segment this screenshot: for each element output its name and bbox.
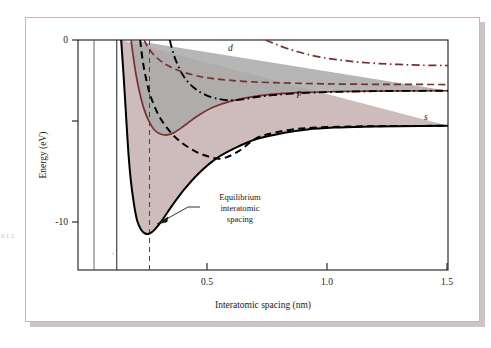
y-axis-ticks bbox=[72, 40, 78, 222]
y-tick-label-0: 0 bbox=[63, 35, 68, 45]
plot-inner-tiny-mark: * bbox=[112, 252, 114, 257]
y-tick-label-minus10: -10 bbox=[55, 217, 68, 227]
x-tick-label-0.5: 0.5 bbox=[201, 277, 213, 287]
y-axis-title: Energy (eV) bbox=[38, 131, 49, 178]
x-axis-title: Interatomic spacing (nm) bbox=[215, 300, 311, 311]
curve-label-p: p bbox=[296, 88, 302, 98]
band-structure-chart: 0 -10 0.5 1.0 1.5 Interatomic spacing (n… bbox=[0, 0, 491, 348]
inner-vertical-lines bbox=[94, 40, 117, 270]
annotation-line-3: spacing bbox=[227, 214, 254, 224]
figure-root: 0 1 2 bbox=[0, 0, 491, 348]
annotation-line-1: Equilibrium bbox=[219, 192, 261, 202]
d-band-upper-edge-curve bbox=[265, 40, 448, 66]
curve-label-d: d bbox=[228, 43, 233, 53]
x-axis-ticks bbox=[207, 263, 447, 270]
x-tick-label-1.5: 1.5 bbox=[441, 277, 453, 287]
curve-label-s: s bbox=[424, 112, 428, 122]
x-tick-label-1.0: 1.0 bbox=[321, 277, 333, 287]
annotation-line-2: interatomic bbox=[220, 203, 259, 213]
shaded-bands bbox=[121, 40, 448, 234]
